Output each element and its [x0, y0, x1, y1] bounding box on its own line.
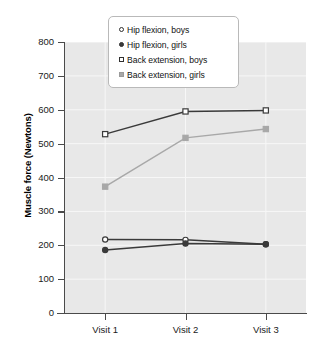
y-axis-tick — [58, 178, 64, 179]
data-point — [263, 126, 268, 131]
legend-item-label: Back extension, girls — [127, 70, 205, 80]
y-axis-tick — [58, 42, 64, 43]
y-axis-tick — [58, 144, 64, 145]
legend-item-label: Hip flexion, girls — [127, 40, 187, 50]
data-point — [183, 241, 188, 246]
y-axis-tick — [58, 313, 64, 314]
data-point — [183, 135, 188, 140]
y-axis-title: Muscle force (Newtons) — [22, 76, 33, 256]
legend-item-back-extension-girls: Back extension, girls — [116, 67, 232, 82]
legend-item-label: Hip flexion, boys — [127, 25, 189, 35]
y-axis-tick-label: 600 — [14, 105, 54, 115]
y-axis-tick-label: 200 — [14, 240, 54, 250]
x-axis-tick — [105, 314, 106, 320]
y-axis-tick-label: 0 — [14, 308, 54, 318]
x-axis-line — [57, 313, 307, 314]
circle-open-icon — [116, 27, 127, 32]
y-axis-tick-label: 800 — [14, 37, 54, 47]
y-axis-line — [64, 42, 65, 314]
data-point — [103, 237, 108, 242]
x-axis-tick-label: Visit 2 — [156, 325, 216, 335]
square-open-icon — [116, 57, 127, 62]
legend-item-hip-flexion-girls: Hip flexion, girls — [116, 37, 232, 52]
y-axis-tick-label: 500 — [14, 139, 54, 149]
y-axis-tick-label: 700 — [14, 71, 54, 81]
y-axis-tick — [58, 110, 64, 111]
legend-item-label: Back extension, boys — [127, 55, 207, 65]
x-axis-tick-label: Visit 1 — [75, 325, 135, 335]
x-axis-tick — [266, 314, 267, 320]
circle-filled-icon — [116, 42, 127, 47]
y-axis-tick-label: 100 — [14, 274, 54, 284]
data-point — [263, 242, 268, 247]
x-axis-tick-label: Visit 3 — [236, 325, 296, 335]
y-axis-tick — [58, 76, 64, 77]
data-point — [103, 184, 108, 189]
legend-item-hip-flexion-boys: Hip flexion, boys — [116, 22, 232, 37]
y-axis-tick-label: 400 — [14, 173, 54, 183]
y-axis-tick — [58, 245, 64, 246]
data-point — [103, 132, 108, 137]
y-axis-tick — [58, 211, 64, 212]
muscle-force-line-chart: Muscle force (Newtons) 01002003004005006… — [0, 0, 313, 348]
y-axis-tick — [58, 279, 64, 280]
legend-item-back-extension-boys: Back extension, boys — [116, 52, 232, 67]
data-point — [183, 109, 188, 114]
data-point — [263, 108, 268, 113]
data-point — [103, 247, 108, 252]
x-axis-tick — [186, 314, 187, 320]
square-filled-icon — [116, 72, 127, 77]
chart-legend: Hip flexion, boys Hip flexion, girls Bac… — [108, 16, 239, 88]
y-axis-tick-label: 300 — [14, 206, 54, 216]
